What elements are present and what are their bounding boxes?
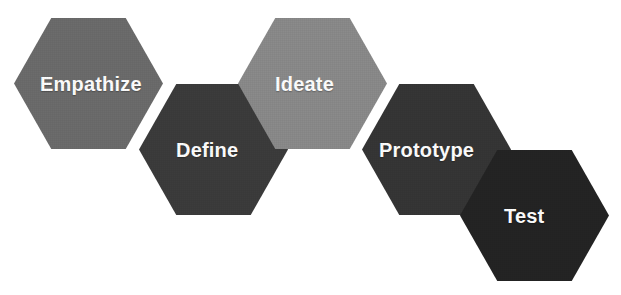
hexagon-step-label: Empathize xyxy=(40,74,142,94)
hexagon-step-label: Define xyxy=(176,140,238,160)
hexagon-step-label: Test xyxy=(504,206,544,226)
hexagon-step-empathize[interactable]: Empathize xyxy=(14,18,163,149)
design-thinking-diagram: EmpathizeDefineIdeatePrototypeTest xyxy=(0,0,621,295)
hexagon-step-label: Ideate xyxy=(275,74,334,94)
hexagon-step-label: Prototype xyxy=(379,140,474,160)
